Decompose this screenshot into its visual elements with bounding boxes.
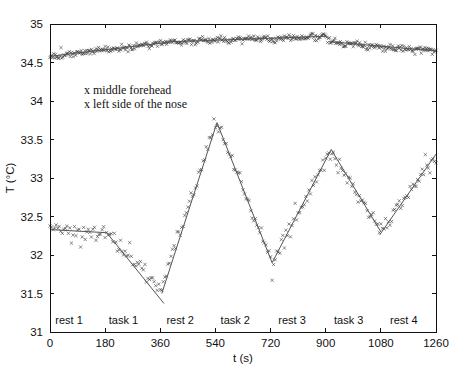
phase-label-task-2: task 2: [221, 314, 250, 326]
y-tick-label: 34: [30, 95, 43, 107]
axes: [50, 24, 436, 332]
phase-label-rest-2: rest 2: [166, 314, 194, 326]
fit-line-left-side-of-the-nose: [217, 123, 272, 263]
x-tick-label: 180: [96, 337, 115, 349]
phase-label-task-3: task 3: [334, 314, 363, 326]
fit-line-left-side-of-the-nose: [380, 154, 436, 235]
temperature-vs-time-chart: 0180360540720900108012603131.53232.53333…: [0, 0, 461, 378]
fit-line-layer: [50, 36, 436, 303]
x-tick-label: 360: [151, 337, 170, 349]
fit-line-left-side-of-the-nose: [162, 123, 217, 294]
y-tick-label: 35: [30, 18, 43, 30]
y-tick-label: 31.5: [21, 288, 43, 300]
legend-entry-1: x left side of the nose: [84, 97, 187, 111]
phase-labels: rest 1task 1rest 2task 2rest 3task 3rest…: [55, 314, 417, 326]
y-tick-label: 32.5: [21, 211, 43, 223]
y-tick-label: 34.5: [21, 57, 43, 69]
phase-label-task-1: task 1: [109, 314, 138, 326]
y-tick-label: 32: [30, 249, 43, 261]
phase-label-rest-3: rest 3: [278, 314, 306, 326]
fit-line-left-side-of-the-nose: [107, 233, 164, 304]
x-tick-label: 0: [47, 337, 53, 349]
y-axis-title: T (°C): [4, 163, 16, 194]
x-axis-title: t (s): [233, 352, 253, 364]
x-tick-label: 720: [261, 337, 280, 349]
fit-line-left-side-of-the-nose: [331, 150, 381, 232]
legend: x middle foreheadx left side of the nose: [84, 83, 187, 111]
x-tick-label: 1260: [423, 337, 449, 349]
y-tick-label: 33: [30, 172, 43, 184]
axis-text: 0180360540720900108012603131.53232.53333…: [4, 18, 449, 364]
plot-box: [50, 24, 436, 332]
x-tick-label: 1080: [368, 337, 394, 349]
scatter-layer: [48, 32, 437, 292]
series-markers-left-side-of-the-nose: [48, 117, 437, 292]
y-tick-label: 31: [30, 326, 43, 338]
phase-label-rest-1: rest 1: [55, 314, 83, 326]
x-tick-label: 900: [316, 337, 335, 349]
x-tick-label: 540: [206, 337, 225, 349]
y-tick-label: 33.5: [21, 134, 43, 146]
fit-line-left-side-of-the-nose: [272, 150, 331, 263]
phase-label-rest-4: rest 4: [390, 314, 418, 326]
legend-entry-0: x middle forehead: [84, 83, 171, 97]
figure-page: 0180360540720900108012603131.53232.53333…: [0, 0, 461, 378]
